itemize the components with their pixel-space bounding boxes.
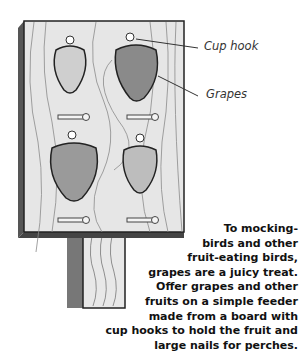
caption-line: large nails for perches. (98, 339, 298, 354)
caption-line: made from a board with (98, 310, 298, 325)
grapes-label: Grapes (206, 87, 247, 101)
caption-line: grapes are a juicy treat. (98, 266, 298, 281)
caption: To mocking- birds and other fruit-eating… (98, 222, 298, 353)
caption-line: fruit-eating birds, (98, 251, 298, 266)
caption-line: fruits on a simple feeder (98, 295, 298, 310)
caption-line: birds and other (98, 237, 298, 252)
feeder-board (18, 21, 184, 252)
caption-line: Offer grapes and other (98, 280, 298, 295)
caption-line: To mocking- (98, 222, 298, 237)
caption-line: cup hooks to hold the fruit and (98, 324, 298, 339)
cup-hook-label: Cup hook (204, 39, 258, 53)
